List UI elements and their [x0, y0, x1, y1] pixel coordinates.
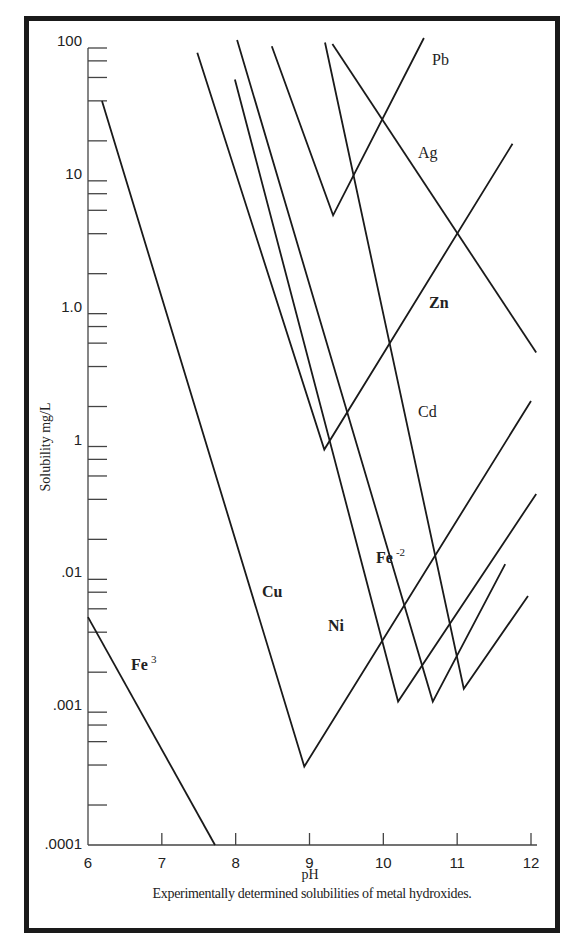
- series-line-fe3: [88, 617, 215, 845]
- series-lines: [88, 38, 536, 845]
- series-line-cu: [102, 101, 531, 767]
- y-tick-label: .001: [53, 696, 82, 713]
- series-label-ag: Ag: [418, 144, 438, 162]
- series-label-zn: Zn: [429, 294, 449, 311]
- y-tick-label: .01: [61, 563, 82, 580]
- x-tick-label: 7: [158, 854, 166, 871]
- series-line-zn: [197, 53, 512, 450]
- x-tick-label: 6: [84, 854, 92, 871]
- y-tick-label: 10: [65, 165, 82, 182]
- series-line-pb: [272, 38, 424, 215]
- x-tick-label: 12: [523, 854, 540, 871]
- series-labels: Fe3CuZnNiFe-2CdPbAg: [131, 51, 449, 673]
- y-tick-label: 1.0: [61, 298, 82, 315]
- y-tick-label: 1: [74, 431, 82, 448]
- x-tick-label: 11: [449, 854, 465, 871]
- x-tick-label: 8: [231, 854, 239, 871]
- series-label-fe3: Fe3: [131, 653, 157, 673]
- series-line-ni: [235, 79, 536, 701]
- y-tick-label: .0001: [44, 835, 82, 852]
- series-label-pb: Pb: [432, 51, 449, 68]
- series-label-ni: Ni: [328, 617, 345, 634]
- x-axis-title: pH: [301, 867, 318, 882]
- solubility-chart: 100101.01.01.001.00016789101112 Fe3CuZnN…: [0, 0, 571, 942]
- series-line-cd: [325, 43, 528, 689]
- series-label-fe-2: Fe-2: [376, 546, 405, 566]
- y-tick-label: 100: [57, 32, 82, 49]
- y-axis-title: Solubility mg/L: [38, 402, 53, 491]
- series-label-cd: Cd: [418, 403, 437, 420]
- series-label-cu: Cu: [262, 583, 283, 600]
- chart-caption: Experimentally determined solubilities o…: [153, 886, 472, 901]
- x-tick-label: 10: [375, 854, 392, 871]
